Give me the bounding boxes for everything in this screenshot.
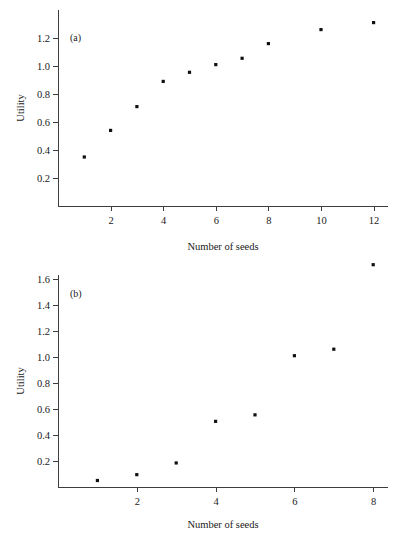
y-tick-label: 1.0 — [37, 352, 50, 363]
y-tick-label: 0.4 — [37, 145, 51, 156]
data-point — [319, 28, 322, 31]
data-point — [372, 263, 375, 266]
y-tick-label: 1.6 — [37, 274, 50, 285]
x-tick-label: 6 — [292, 496, 297, 507]
figure-two-panel-scatter: 0.20.40.60.81.01.224681012(a)Number of s… — [0, 0, 398, 540]
y-tick-label: 0.6 — [37, 404, 50, 415]
y-tick-label: 0.2 — [37, 173, 50, 184]
x-axis-title: Number of seeds — [187, 241, 258, 252]
y-tick-label: 0.2 — [37, 456, 50, 467]
x-tick-label: 6 — [214, 215, 219, 226]
data-point — [214, 420, 217, 423]
data-point — [267, 42, 270, 45]
x-tick-label: 4 — [161, 215, 167, 226]
y-axis-title: Utility — [15, 367, 26, 395]
x-tick-label: 4 — [213, 496, 219, 507]
chart-panel-b: 0.20.40.60.81.01.21.41.62468(b)Number of… — [0, 262, 398, 540]
y-tick-label: 0.6 — [37, 117, 50, 128]
data-point — [293, 354, 296, 357]
scatter-plot-a: 0.20.40.60.81.01.224681012(a)Number of s… — [0, 0, 398, 262]
x-tick-label: 8 — [371, 496, 376, 507]
x-tick-label: 2 — [108, 215, 113, 226]
data-point — [109, 129, 112, 132]
data-point — [253, 413, 256, 416]
plot-area: 0.20.40.60.81.01.224681012(a)Number of s… — [15, 10, 388, 252]
data-point — [214, 63, 217, 66]
x-tick-label: 10 — [316, 215, 327, 226]
data-point — [332, 348, 335, 351]
y-tick-label: 0.8 — [37, 89, 50, 100]
y-tick-label: 0.4 — [37, 430, 51, 441]
data-point — [83, 155, 86, 158]
y-tick-label: 1.0 — [37, 61, 50, 72]
y-tick-label: 1.4 — [37, 300, 51, 311]
data-point — [188, 71, 191, 74]
data-point — [96, 479, 99, 482]
x-axis-title: Number of seeds — [187, 519, 258, 530]
data-point — [372, 21, 375, 24]
chart-panel-a: 0.20.40.60.81.01.224681012(a)Number of s… — [0, 0, 398, 262]
panel-label: (a) — [70, 32, 81, 44]
x-tick-label: 8 — [266, 215, 271, 226]
data-point — [162, 80, 165, 83]
data-point — [135, 473, 138, 476]
x-tick-label: 12 — [369, 215, 380, 226]
data-point — [135, 105, 138, 108]
y-tick-label: 1.2 — [37, 33, 50, 44]
y-tick-label: 0.8 — [37, 378, 50, 389]
plot-area: 0.20.40.60.81.01.21.41.62468(b)Number of… — [15, 263, 388, 530]
data-point — [175, 461, 178, 464]
y-axis-title: Utility — [15, 94, 26, 122]
panel-label: (b) — [70, 288, 82, 300]
data-point — [241, 57, 244, 60]
y-tick-label: 1.2 — [37, 326, 50, 337]
scatter-plot-b: 0.20.40.60.81.01.21.41.62468(b)Number of… — [0, 262, 398, 540]
x-tick-label: 2 — [135, 496, 140, 507]
